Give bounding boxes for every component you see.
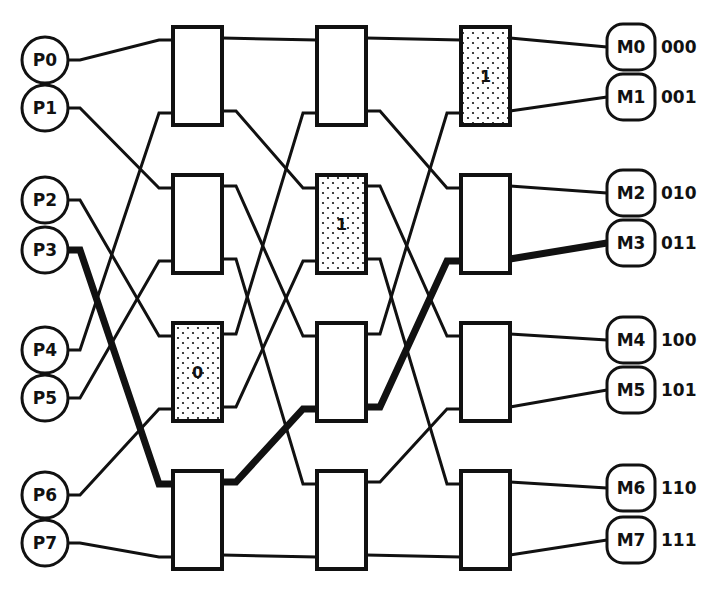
processor-node: P6 [22,472,68,518]
switch [317,471,366,569]
processor-label: P3 [33,240,57,260]
memory-address: 110 [661,478,697,498]
memory-label: M5 [617,380,646,400]
wire-stage2-to-stage3 [366,555,461,557]
memory-label: M7 [617,530,646,550]
switch-routing-bit: 0 [192,363,203,382]
memory-address: 101 [661,380,697,400]
processor-label: P4 [33,340,57,360]
switch [173,471,222,569]
memory-node: M2010 [607,170,697,216]
wire-p0-to-stage1 [68,40,173,60]
wire-stage3-to-m2 [510,186,607,193]
switch-routing-bit: 1 [336,215,347,234]
wire-stage1-to-stage2 [222,113,317,334]
switch [317,323,366,421]
processor-label: P0 [33,50,57,70]
wire-stage1-to-stage2 [222,409,317,482]
wire-stage3-to-m0 [510,38,607,47]
wire-stage1-to-stage2 [222,38,317,40]
wire-stage2-to-stage3 [366,409,461,482]
wire-stage3-to-m1 [510,97,607,111]
memory-node: M1001 [607,74,697,120]
wire-stage1-to-stage2 [222,111,317,188]
wire-stage3-to-m5 [510,390,607,407]
memory-address: 000 [661,37,697,57]
processor-node: P2 [22,177,68,223]
processor-label: P5 [33,388,57,408]
memory-address: 111 [661,530,697,550]
switch [317,27,366,125]
memory-label: M4 [617,330,646,350]
processor-node: P3 [22,227,68,273]
processor-node: P1 [22,85,68,131]
memories-layer: M0000M1001M2010M3011M4100M5101M6110M7111 [607,24,697,563]
wire-stage3-to-m7 [510,540,607,555]
processor-node: P5 [22,375,68,421]
wire-stage2-to-stage3 [366,111,461,188]
switch [173,175,222,273]
processor-node: P4 [22,327,68,373]
processor-label: P1 [33,98,57,118]
switch-routing-bit: 1 [480,67,491,86]
memory-label: M6 [617,478,646,498]
processor-label: P2 [33,190,57,210]
wire-stage3-to-m3 [510,243,607,259]
memory-node: M4100 [607,317,697,363]
memory-address: 001 [661,87,697,107]
processor-node: P0 [22,37,68,83]
wire-stage3-to-m6 [510,482,607,488]
wire-stage3-to-m4 [510,334,607,340]
memory-node: M5101 [607,367,697,413]
memory-address: 010 [661,183,697,203]
memory-node: M3011 [607,220,697,266]
processor-label: P6 [33,485,57,505]
wire-stage2-to-stage3 [366,259,461,484]
switch [173,27,222,125]
memory-label: M1 [617,87,646,107]
memory-label: M0 [617,37,646,57]
memory-node: M7111 [607,517,697,563]
processor-label: P7 [33,533,57,553]
memory-node: M6110 [607,465,697,511]
wire-p7-to-stage1 [68,543,173,557]
memory-address: 011 [661,233,697,253]
omega-network-diagram: 011 P0P1P2P3P4P5P6P7 M0000M1001M2010M301… [0,0,728,602]
memory-address: 100 [661,330,697,350]
switch [461,471,510,569]
switch [461,175,510,273]
processors-layer: P0P1P2P3P4P5P6P7 [22,37,68,566]
wire-stage2-to-stage3 [366,38,461,40]
memory-label: M2 [617,183,646,203]
memory-node: M0000 [607,24,697,70]
memory-label: M3 [617,233,646,253]
wire-stage2-to-stage3 [366,113,461,334]
processor-node: P7 [22,520,68,566]
wire-stage1-to-stage2 [222,555,317,557]
switch [461,323,510,421]
switches-layer: 011 [173,27,510,569]
